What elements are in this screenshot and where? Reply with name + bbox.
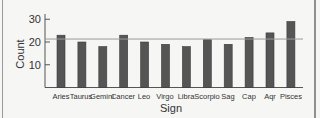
chart-frame: Count 10 20 30 Aries Taurus Gemini Cance…	[0, 0, 320, 118]
x-tick-label: Leo	[138, 92, 151, 101]
x-tick-labels: Aries Taurus Gemini Cancer Leo Virgo Lib…	[52, 92, 302, 101]
bar-cancer	[120, 35, 128, 87]
y-axis-label: Count	[14, 39, 26, 68]
bar-pisces	[287, 22, 295, 88]
x-tick-label: Cap	[242, 92, 256, 101]
x-tick-label: Libra	[178, 92, 196, 101]
bars	[57, 22, 295, 88]
bar-scorpio	[203, 40, 211, 88]
x-tick-label: Aries	[52, 92, 69, 101]
bar-sag	[224, 44, 232, 87]
x-axis-label: Sign	[160, 102, 182, 114]
x-tick-label: Virgo	[156, 92, 173, 101]
x-tick-label: Aqr	[264, 92, 276, 101]
x-tick-label: Sag	[221, 92, 234, 101]
y-tick-label-10: 10	[29, 59, 41, 71]
bar-aries	[57, 35, 65, 87]
bar-aqr	[266, 33, 274, 88]
y-tick-label-20: 20	[29, 36, 41, 48]
x-tick-label: Pisces	[280, 92, 302, 101]
bar-cap	[245, 38, 253, 88]
bar-leo	[141, 42, 149, 88]
bar-libra	[182, 47, 190, 88]
x-tick-label: Cancer	[111, 92, 136, 101]
bar-gemini	[99, 47, 107, 88]
bar-virgo	[162, 44, 170, 87]
bar-chart: Count 10 20 30 Aries Taurus Gemini Cance…	[0, 0, 320, 118]
y-tick-label-30: 30	[29, 13, 41, 25]
x-tick-label: Taurus	[70, 92, 93, 101]
bar-taurus	[78, 42, 86, 88]
x-tick-label: Scorpio	[194, 92, 219, 101]
